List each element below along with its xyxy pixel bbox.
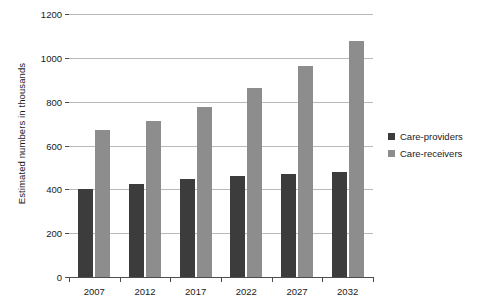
x-tick-label: 2012 [134, 286, 155, 297]
legend-swatch-icon [388, 150, 395, 157]
x-tick-mark [120, 277, 121, 282]
bar-care-receivers-2017 [197, 107, 212, 278]
chart-legend: Care-providersCare-receivers [388, 128, 463, 162]
gridline [69, 146, 373, 147]
x-tick-mark [221, 277, 222, 282]
y-tick-mark [65, 146, 69, 147]
y-tick-label: 800 [46, 96, 62, 107]
legend-label: Care-providers [400, 131, 463, 142]
y-tick-label: 1000 [41, 52, 62, 63]
gridline [69, 58, 373, 59]
y-tick-mark [65, 58, 69, 59]
bar-care-receivers-2022 [247, 88, 262, 277]
bar-care-providers-2032 [332, 172, 347, 277]
bar-care-providers-2012 [129, 184, 144, 277]
x-tick-mark [69, 277, 70, 282]
y-tick-label: 600 [46, 140, 62, 151]
x-tick-label: 2007 [84, 286, 105, 297]
x-tick-label: 2027 [286, 286, 307, 297]
y-tick-label: 400 [46, 184, 62, 195]
x-tick-mark [272, 277, 273, 282]
y-tick-mark [65, 233, 69, 234]
x-tick-mark [373, 277, 374, 282]
x-tick-label: 2017 [185, 286, 206, 297]
gridline [69, 233, 373, 234]
bar-care-providers-2027 [281, 174, 296, 277]
x-tick-label: 2022 [236, 286, 257, 297]
bar-chart: Estimated numbers in thousands 020040060… [0, 0, 481, 301]
y-tick-mark [65, 102, 69, 103]
legend-item-care-receivers[interactable]: Care-receivers [388, 145, 463, 162]
y-tick-label: 200 [46, 228, 62, 239]
y-tick-label: 1200 [41, 9, 62, 20]
gridline [69, 102, 373, 103]
bar-care-providers-2022 [230, 176, 245, 277]
legend-item-care-providers[interactable]: Care-providers [388, 128, 463, 145]
y-tick-mark [65, 14, 69, 15]
gridline [69, 14, 373, 15]
bar-care-receivers-2027 [298, 66, 313, 277]
legend-swatch-icon [388, 133, 395, 140]
y-tick-label: 0 [57, 272, 62, 283]
gridline [69, 189, 373, 190]
x-tick-label: 2032 [337, 286, 358, 297]
y-axis-title: Estimated numbers in thousands [16, 39, 27, 229]
legend-label: Care-receivers [400, 148, 462, 159]
bar-care-receivers-2012 [146, 121, 161, 277]
bar-care-providers-2017 [180, 179, 195, 277]
bar-care-receivers-2032 [349, 41, 364, 277]
bar-care-receivers-2007 [95, 130, 110, 277]
plot-area: 020040060080010001200 200720122017202220… [69, 14, 373, 277]
x-tick-mark [170, 277, 171, 282]
y-tick-mark [65, 189, 69, 190]
x-tick-mark [322, 277, 323, 282]
bar-care-providers-2007 [78, 189, 93, 277]
